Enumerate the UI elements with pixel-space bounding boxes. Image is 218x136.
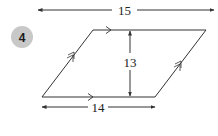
height-dimension: 13 [124,31,137,96]
problem-number: 4 [19,31,26,45]
left-side-parallel-mark [67,52,74,62]
right-side-parallel-mark [174,61,181,71]
total-width-label: 15 [118,3,131,18]
total-width-dimension: 15 [38,3,214,18]
base-label: 14 [92,100,106,115]
height-label: 13 [124,55,137,70]
base-dimension: 14 [42,100,155,115]
problem-number-badge: 4 [11,26,33,48]
parallelogram-diagram: 4 15 13 14 [0,0,218,136]
